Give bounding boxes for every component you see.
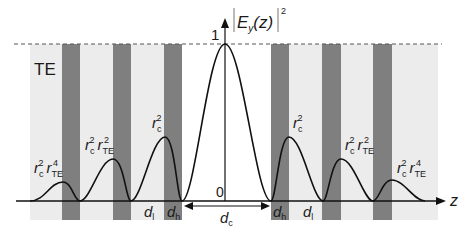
mode-label: TE [34, 60, 56, 79]
origin-label: 0 [216, 184, 224, 200]
intensity-axis-arrow-icon [221, 18, 229, 28]
z-axis-label: z [449, 192, 458, 209]
peak-label-rc2-left: rc2 [152, 113, 162, 134]
dc-arrow-right-icon [261, 202, 270, 210]
peak-label-rc2-right: rc2 [293, 113, 303, 134]
field-intensity-diagram: TE Ey(z) 2 1 0 z rc2rTE4 rc2rTE2 rc2 rc2… [0, 0, 469, 236]
intensity-axis-power: 2 [281, 6, 286, 16]
high-index-layer [373, 44, 392, 220]
high-index-layer [322, 44, 341, 220]
intensity-axis-label: Ey(z) [237, 13, 273, 34]
dim-label-dc: dc [220, 209, 233, 228]
high-index-layer [113, 44, 131, 220]
z-axis-arrow-icon [436, 197, 446, 205]
dc-arrow-left-icon [184, 202, 193, 210]
high-index-layer [62, 44, 80, 220]
y-tick-one: 1 [211, 26, 219, 43]
